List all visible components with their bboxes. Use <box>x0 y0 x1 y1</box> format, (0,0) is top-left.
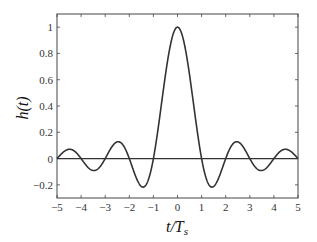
x-tick-label: 4 <box>271 201 277 213</box>
x-tick-label: 1 <box>199 201 205 213</box>
y-tick-label: 1 <box>48 21 54 33</box>
plot-area: −5−4−3−2−1012345−0.200.20.40.60.81 <box>33 14 301 213</box>
x-tick-label: −2 <box>123 201 135 213</box>
x-tick-label: −1 <box>148 201 160 213</box>
x-tick-label: −4 <box>75 201 87 213</box>
y-tick-label: 0 <box>48 153 54 165</box>
x-axis-label: t/Ts <box>166 218 188 237</box>
x-tick-label: 0 <box>175 201 181 213</box>
y-tick-label: −0.2 <box>33 179 53 191</box>
chart: −5−4−3−2−1012345−0.200.20.40.60.81 h(t) … <box>0 0 317 242</box>
x-tick-label: −5 <box>51 201 63 213</box>
data-series-line <box>57 27 298 187</box>
x-tick-label: 3 <box>247 201 253 213</box>
x-tick-label: 5 <box>295 201 301 213</box>
x-axis-label-subscript: s <box>184 225 188 237</box>
y-tick-label: 0.8 <box>39 47 53 59</box>
x-tick-label: −3 <box>99 201 111 213</box>
y-tick-label: 0.4 <box>39 100 53 112</box>
x-tick-label: 2 <box>223 201 229 213</box>
y-tick-label: 0.6 <box>39 74 53 86</box>
y-axis-label: h(t) <box>14 96 32 119</box>
y-tick-label: 0.2 <box>39 126 53 138</box>
